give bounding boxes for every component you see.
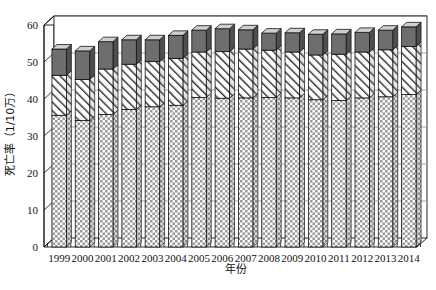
bar-segment <box>262 50 276 97</box>
bar-segment <box>122 109 136 247</box>
x-tick-label: 1999 <box>48 252 71 264</box>
bar-segment <box>238 98 252 247</box>
bar-segment <box>192 98 206 247</box>
bar-column <box>215 24 234 247</box>
bar-segment <box>215 29 229 52</box>
bar-segment <box>285 33 299 52</box>
bar-segment <box>402 46 416 94</box>
bar-segment <box>378 50 392 97</box>
bar-column <box>75 46 94 247</box>
bar-column <box>262 29 281 247</box>
bar-segment <box>308 100 322 247</box>
bar-column <box>122 35 141 247</box>
y-tick-label: 0 <box>33 241 39 253</box>
y-tick-label: 40 <box>27 93 39 105</box>
bar-segment <box>168 105 182 247</box>
bar-column <box>378 26 397 247</box>
x-tick-label: 2003 <box>141 252 164 264</box>
bar-column <box>402 22 421 247</box>
bar-segment <box>238 30 252 49</box>
bar-segment <box>332 54 346 100</box>
x-tick-label: 2014 <box>398 252 421 264</box>
x-tick-label: 2002 <box>118 252 140 264</box>
bar-column <box>145 35 164 247</box>
bar-segment <box>378 30 392 50</box>
bar-segment <box>145 107 159 247</box>
bar-segment <box>75 51 89 79</box>
x-tick-label: 2013 <box>375 252 398 264</box>
y-tick-label: 60 <box>27 19 39 31</box>
bar-column <box>52 45 71 247</box>
bar-segment <box>52 115 66 247</box>
bar-segment <box>215 98 229 247</box>
bar-column <box>355 28 374 247</box>
bar-segment <box>402 95 416 247</box>
bar-segment <box>262 33 276 50</box>
x-tick-label: 2008 <box>258 252 281 264</box>
bar-segment <box>192 30 206 52</box>
x-tick-label: 2004 <box>165 252 188 264</box>
bar-segment <box>99 69 113 115</box>
y-tick-label: 30 <box>27 130 39 142</box>
y-tick-label: 20 <box>27 167 39 179</box>
bar-segment <box>52 75 66 115</box>
y-tick-label: 10 <box>27 204 39 216</box>
x-tick-label: 2010 <box>305 252 328 264</box>
bar-column <box>238 25 257 247</box>
bar-segment <box>355 32 369 52</box>
chart-canvas: 0102030405060 19992000200120022003200420… <box>0 0 436 290</box>
bar-segment <box>332 34 346 54</box>
bar-segment <box>75 120 89 247</box>
x-tick-label: 2011 <box>328 252 350 264</box>
bar-segment <box>192 52 206 98</box>
x-tick-label: 2009 <box>281 252 304 264</box>
bar-column <box>308 30 327 247</box>
bar-segment <box>75 79 89 120</box>
bar-segment <box>122 40 136 64</box>
bar-segment <box>285 52 299 98</box>
bar-column <box>168 31 187 247</box>
bar-column <box>332 29 351 247</box>
bar-segment <box>99 42 113 69</box>
x-axis-title: 年份 <box>225 262 247 276</box>
bar-segment <box>285 98 299 247</box>
mortality-rate-stacked-column-chart: 0102030405060 19992000200120022003200420… <box>0 0 436 290</box>
bar-segment <box>238 49 252 98</box>
bar-segment <box>99 115 113 247</box>
bar-segment <box>355 98 369 247</box>
bar-segment <box>262 98 276 247</box>
bar-segment <box>308 55 322 100</box>
bar-segment <box>355 52 369 98</box>
bar-column <box>285 28 304 247</box>
bar-segment <box>168 35 182 58</box>
bar-segment <box>308 34 322 55</box>
bar-column <box>192 26 211 247</box>
x-tick-label: 2005 <box>188 252 211 264</box>
bar-column <box>99 37 118 247</box>
bar-segment <box>52 49 66 75</box>
x-tick-label: 2000 <box>71 252 94 264</box>
bar-segment <box>122 64 136 109</box>
y-axis-title: 死亡率（1/10万） <box>3 86 17 177</box>
x-tick-label: 2012 <box>351 252 373 264</box>
x-tick-label: 2001 <box>95 252 117 264</box>
bar-segment <box>332 100 346 247</box>
bar-segment <box>168 58 182 105</box>
bar-segment <box>402 27 416 47</box>
bar-segment <box>145 62 159 107</box>
bar-segment <box>215 52 229 99</box>
bar-segment <box>378 97 392 247</box>
bar-segment <box>145 40 159 62</box>
y-tick-label: 50 <box>27 56 39 68</box>
